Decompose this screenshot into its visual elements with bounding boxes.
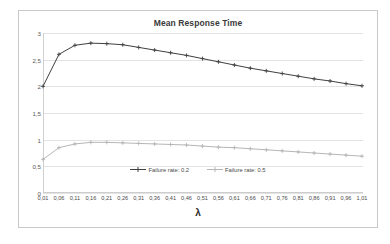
data-point-marker [280,72,284,76]
data-point-marker [328,152,332,156]
data-point-marker [360,154,364,158]
data-point-marker [312,151,316,155]
data-point-marker [169,142,173,146]
data-point-marker [105,42,109,46]
chart-legend: Failure rate: 0.2Failure rate: 0.5 [19,166,377,173]
legend-item[interactable]: Failure rate: 0.5 [207,166,266,173]
data-point-marker [264,148,268,152]
data-point-marker [185,143,189,147]
data-point-marker [248,147,252,151]
data-point-marker [216,145,220,149]
data-point-marker [216,60,220,64]
x-axis-tick-labels: 0,010,060,110,160,210,260,310,360,410,46… [43,195,363,207]
data-point-marker [312,77,316,81]
y-axis-tick-label: 2,5 [21,56,41,63]
data-point-marker [248,66,252,70]
chart-container: Mean Response Time 00,511,522,53 0,010,0… [18,10,378,228]
data-point-marker [169,51,173,55]
x-axis-tick-label: 1,01 [350,195,374,201]
data-point-marker [41,84,45,88]
data-point-marker [344,82,348,86]
data-point-marker [105,140,109,144]
data-point-marker [73,43,77,47]
y-axis-tick-label: 2 [21,83,41,90]
y-axis-tick-label: 3 [21,30,41,37]
data-point-marker [121,141,125,145]
data-point-marker [296,74,300,78]
data-point-marker [57,52,61,56]
data-point-marker [280,149,284,153]
data-point-marker [264,69,268,73]
data-point-marker [153,142,157,146]
data-point-marker [201,144,205,148]
legend-swatch-icon [207,166,223,173]
legend-label: Failure rate: 0.5 [225,167,266,173]
x-axis-title: λ [19,207,377,218]
series-failure-rate-0-2 [41,41,364,88]
legend-label: Failure rate: 0.2 [148,167,189,173]
data-point-marker [328,79,332,83]
data-point-marker [344,153,348,157]
data-point-marker [89,140,93,144]
series-failure-rate-0-5 [41,140,364,161]
data-point-marker [201,57,205,61]
gridline [43,193,363,194]
data-point-marker [185,53,189,57]
legend-swatch-icon [130,166,146,173]
data-point-marker [137,141,141,145]
y-axis-tick-label: 1 [21,136,41,143]
data-point-marker [360,84,364,88]
data-point-marker [153,48,157,52]
data-point-marker [232,146,236,150]
data-point-marker [232,63,236,67]
chart-title: Mean Response Time [19,18,377,28]
data-point-marker [89,41,93,45]
data-point-marker [121,43,125,47]
y-axis-tick-label: 1,5 [21,110,41,117]
data-point-marker [296,150,300,154]
legend-item[interactable]: Failure rate: 0.2 [130,166,189,173]
data-point-marker [73,142,77,146]
data-point-marker [137,45,141,49]
